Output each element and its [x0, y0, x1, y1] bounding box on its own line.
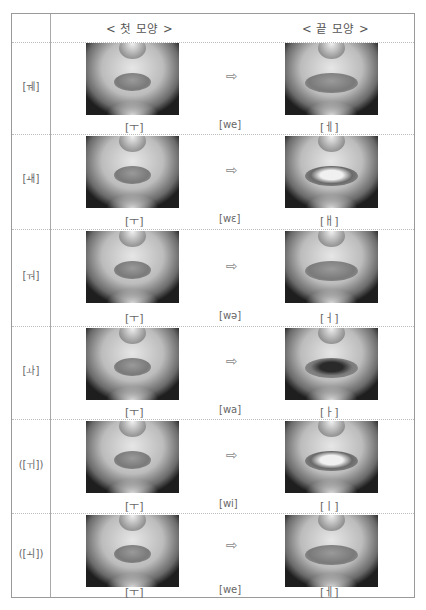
start-mouth-image: [86, 231, 179, 303]
arrow-icon: ⇨: [226, 353, 238, 369]
arrow-icon: ⇨: [226, 68, 238, 84]
ipa-caption: [we]: [219, 119, 241, 130]
arrow-icon: ⇨: [226, 258, 238, 274]
start-mouth-image: [86, 421, 179, 493]
start-vowel-caption: [ㅜ]: [125, 403, 144, 419]
table-row: [ㅝ] ⇨ [ㅜ] [wə] [ㅓ]: [12, 229, 414, 327]
vowel-label: [ㅞ]: [12, 78, 50, 93]
vowel-label: [ㅝ]: [12, 267, 50, 282]
end-mouth-image: [285, 515, 378, 587]
ipa-caption: [wɛ]: [219, 213, 240, 224]
end-vowel-caption: [ㅔ]: [320, 118, 339, 134]
start-mouth-image: [86, 515, 179, 587]
end-mouth-image: [285, 328, 378, 400]
vowel-label: ([ㅟ]): [12, 456, 50, 471]
table-row: [ㅘ] ⇨ [ㅜ] [wa] [ㅏ]: [12, 326, 414, 420]
arrow-icon: ⇨: [226, 537, 238, 553]
end-vowel-caption: [ㅔ]: [320, 583, 339, 599]
end-mouth-image: [285, 136, 378, 208]
start-vowel-caption: [ㅜ]: [125, 212, 144, 228]
start-mouth-image: [86, 328, 179, 400]
arrow-icon: ⇨: [226, 162, 238, 178]
last-shape-heading: < 끝 모양 >: [302, 20, 369, 36]
table-row: [ㅞ] ⇨ [ㅜ] [we] [ㅔ]: [12, 42, 414, 135]
start-mouth-image: [86, 136, 179, 208]
start-vowel-caption: [ㅜ]: [125, 497, 144, 513]
end-vowel-caption: [ㅐ]: [320, 212, 339, 228]
start-vowel-caption: [ㅜ]: [125, 118, 144, 134]
end-mouth-image: [285, 421, 378, 493]
vowel-mouth-shape-table: < 첫 모양 > < 끝 모양 > [ㅞ] ⇨ [ㅜ] [we] [ㅔ] [ㅙ]…: [11, 13, 415, 598]
header-row: < 첫 모양 > < 끝 모양 >: [12, 14, 414, 43]
end-mouth-image: [285, 231, 378, 303]
table-row: ([ㅚ]) ⇨ [ㅜ] [we] [ㅔ]: [12, 513, 414, 598]
end-vowel-caption: [ㅣ]: [320, 497, 339, 513]
start-vowel-caption: [ㅜ]: [125, 583, 144, 599]
vowel-label: ([ㅚ]): [12, 545, 50, 560]
ipa-caption: [wa]: [219, 404, 241, 415]
start-vowel-caption: [ㅜ]: [125, 309, 144, 325]
end-vowel-caption: [ㅏ]: [320, 403, 339, 419]
end-vowel-caption: [ㅓ]: [320, 309, 339, 325]
first-shape-heading: < 첫 모양 >: [106, 20, 173, 36]
vowel-label: [ㅙ]: [12, 170, 50, 185]
table-row: [ㅙ] ⇨ [ㅜ] [wɛ] [ㅐ]: [12, 134, 414, 230]
vowel-label: [ㅘ]: [12, 362, 50, 377]
ipa-caption: [wə]: [219, 310, 241, 321]
ipa-caption: [we]: [219, 584, 241, 595]
arrow-icon: ⇨: [226, 447, 238, 463]
ipa-caption: [wi]: [219, 498, 238, 509]
start-mouth-image: [86, 43, 179, 115]
end-mouth-image: [285, 43, 378, 115]
table-row: ([ㅟ]) ⇨ [ㅜ] [wi] [ㅣ]: [12, 419, 414, 514]
